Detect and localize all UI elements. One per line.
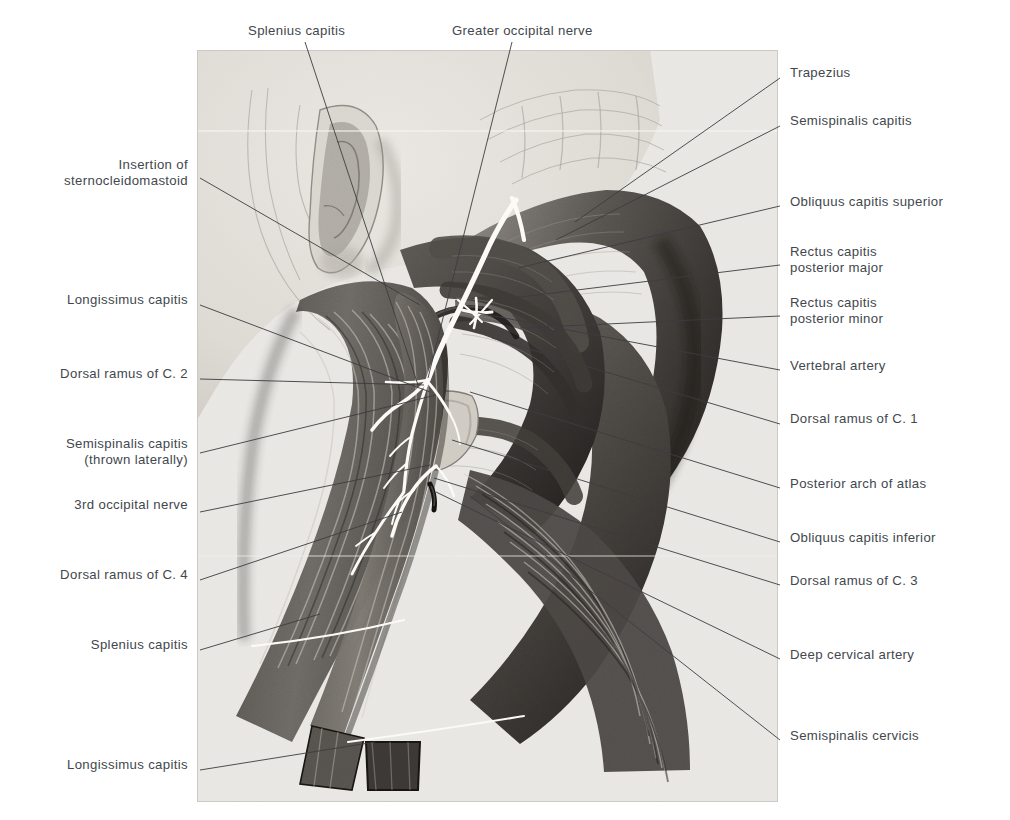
label-vertebral-artery: Vertebral artery — [790, 358, 886, 374]
panel-grain — [197, 50, 778, 802]
label-deep-cervical-artery: Deep cervical artery — [790, 647, 914, 663]
label-splenius-capitis-lower: Splenius capitis — [91, 637, 188, 653]
label-posterior-arch-of-atlas: Posterior arch of atlas — [790, 476, 926, 492]
label-dorsal-ramus-of-c4: Dorsal ramus of C. 4 — [60, 567, 188, 583]
label-insertion-of-sternocleidomastoid: Insertion of sternocleidomastoid — [64, 157, 188, 188]
anatomical-plate: Splenius capitisGreater occipital nerve … — [0, 0, 1010, 820]
label-semispinalis-cervicis: Semispinalis cervicis — [790, 728, 919, 744]
label-longissimus-capitis-upper: Longissimus capitis — [67, 292, 188, 308]
illustration-panel — [197, 50, 778, 802]
label-third-occipital-nerve: 3rd occipital nerve — [74, 497, 188, 513]
label-greater-occipital-nerve: Greater occipital nerve — [452, 23, 593, 39]
label-splenius-capitis-top: Splenius capitis — [248, 23, 345, 39]
label-obliquus-capitis-superior: Obliquus capitis superior — [790, 194, 943, 210]
label-longissimus-capitis-lower: Longissimus capitis — [67, 757, 188, 773]
label-semispinalis-capitis-right: Semispinalis capitis — [790, 113, 912, 129]
label-trapezius: Trapezius — [790, 65, 851, 81]
label-dorsal-ramus-of-c3: Dorsal ramus of C. 3 — [790, 573, 918, 589]
label-rectus-capitis-posterior-major: Rectus capitis posterior major — [790, 244, 883, 275]
label-semispinalis-capitis-thrown: Semispinalis capitis (thrown laterally) — [66, 436, 188, 467]
label-dorsal-ramus-of-c2: Dorsal ramus of C. 2 — [60, 366, 188, 382]
label-dorsal-ramus-of-c1: Dorsal ramus of C. 1 — [790, 411, 918, 427]
label-obliquus-capitis-inferior: Obliquus capitis inferior — [790, 530, 936, 546]
label-rectus-capitis-posterior-minor: Rectus capitis posterior minor — [790, 295, 883, 326]
